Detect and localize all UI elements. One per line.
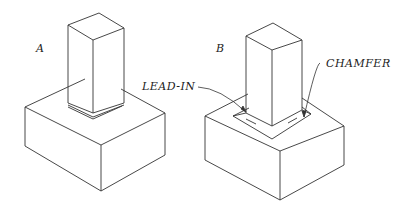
part-b-base	[205, 94, 344, 200]
diagram-canvas: A B LEAD-IN CHAMFER	[0, 0, 409, 208]
chamfer-callout: CHAMFER	[326, 57, 391, 70]
part-a-pillar	[68, 13, 124, 119]
part-b-pillar	[246, 23, 302, 126]
part-a-label: A	[36, 42, 44, 55]
lead-in-callout: LEAD-IN	[142, 80, 196, 93]
part-b-label: B	[216, 42, 225, 55]
isometric-drawing	[0, 0, 409, 208]
part-a-base	[25, 79, 165, 191]
